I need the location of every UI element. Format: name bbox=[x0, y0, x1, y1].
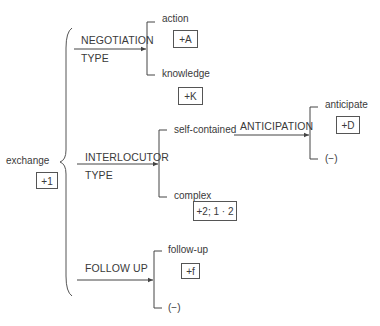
option-anticipate: anticipate bbox=[325, 99, 368, 111]
option-follow-up: follow-up bbox=[168, 244, 208, 256]
interlocutor-bracket bbox=[159, 130, 167, 197]
root-feature-box: +1 bbox=[36, 172, 58, 189]
anticipation-bracket bbox=[310, 107, 318, 159]
interlocutor-system-name-line2: TYPE bbox=[85, 169, 113, 181]
feature-box-follow-up: +f bbox=[181, 263, 200, 279]
follow-up-system-name: FOLLOW UP bbox=[85, 262, 148, 274]
feature-box-knowledge: +K bbox=[178, 87, 203, 105]
feature-box-action: +A bbox=[173, 30, 198, 48]
feature-box-anticipate: +D bbox=[336, 116, 360, 134]
negotiation-system-name-line2: TYPE bbox=[81, 52, 109, 64]
option-anticipation-none: (−) bbox=[325, 153, 338, 165]
root-label: exchange bbox=[6, 155, 49, 167]
feature-box-complex: +2; 1 · 2 bbox=[193, 201, 237, 221]
anticipation-system-name: ANTICIPATION bbox=[240, 120, 313, 132]
simultaneous-brace bbox=[60, 28, 72, 296]
option-self-contained: self-contained bbox=[174, 124, 236, 136]
option-follow-up-none: (−) bbox=[168, 302, 181, 314]
option-knowledge: knowledge bbox=[162, 68, 210, 80]
interlocutor-system-name: INTERLOCUTOR bbox=[85, 151, 169, 163]
option-action: action bbox=[162, 13, 189, 25]
follow-up-bracket bbox=[154, 251, 162, 308]
negotiation-bracket bbox=[147, 22, 155, 75]
negotiation-system-name: NEGOTIATION bbox=[81, 34, 154, 46]
